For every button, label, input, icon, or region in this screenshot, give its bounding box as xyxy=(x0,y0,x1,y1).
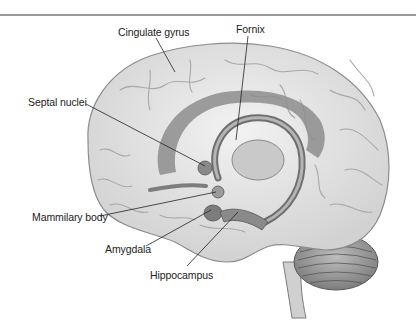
label-septal-nuclei: Septal nuclei xyxy=(28,96,87,108)
mammilary-body-shape xyxy=(212,186,224,198)
thalamus-shape xyxy=(232,140,284,180)
label-fornix: Fornix xyxy=(236,23,265,35)
label-hippocampus: Hippocampus xyxy=(150,269,213,281)
label-mammilary-body: Mammilary body xyxy=(32,211,108,223)
label-cingulate-gyrus: Cingulate gyrus xyxy=(118,26,189,38)
label-amygdala: Amygdala xyxy=(105,243,151,255)
amygdala-shape xyxy=(204,205,222,221)
